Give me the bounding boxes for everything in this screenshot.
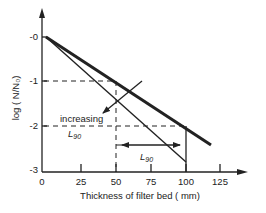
x-axis-arrow-icon: [237, 169, 248, 175]
increasing-label: increasing: [60, 113, 103, 124]
y-tick-3: -3: [30, 164, 38, 175]
x-tick-100: 100: [178, 176, 194, 187]
x-axis: [42, 164, 248, 175]
x-tick-0: 0: [39, 176, 44, 187]
x-axis-label: Thickness of filter bed ( mm): [80, 190, 200, 201]
y-axis-label: log ( N/N₀): [10, 76, 21, 121]
y-tick-2: -2: [30, 120, 38, 131]
y-tick-1: -1: [30, 75, 38, 86]
chart: -0 -1 -2 -3 0 25 50 75 100 125 Thickness…: [0, 0, 266, 213]
x-tick-125: 125: [212, 176, 228, 187]
y-axis: [39, 8, 47, 172]
l90-label-1: L90: [68, 128, 81, 140]
x-tick-75: 75: [146, 176, 157, 187]
series-thin-line: [46, 37, 186, 162]
l90-label-2: L90: [140, 151, 153, 163]
y-tick-0: -0: [30, 31, 38, 42]
x-tick-50: 50: [111, 176, 122, 187]
y-axis-arrow-icon: [39, 8, 45, 18]
x-tick-25: 25: [76, 176, 87, 187]
